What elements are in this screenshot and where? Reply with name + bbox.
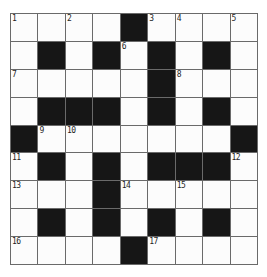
letter-cell-r5c3[interactable]: 10 [66, 126, 92, 153]
letter-cell-r3c8[interactable] [203, 70, 229, 97]
blocked-cell-r2c6 [148, 42, 174, 69]
letter-cell-r8c1[interactable] [11, 209, 37, 236]
letter-cell-r8c9[interactable] [231, 209, 257, 236]
blocked-cell-r6c6 [148, 153, 174, 180]
clue-number-5: 5 [232, 14, 236, 23]
blocked-cell-r2c4 [93, 42, 119, 69]
letter-cell-r3c2[interactable] [38, 70, 64, 97]
letter-cell-r8c3[interactable] [66, 209, 92, 236]
letter-cell-r1c4[interactable] [93, 14, 119, 41]
clue-number-8: 8 [177, 70, 181, 79]
clue-number-10: 10 [67, 126, 76, 135]
letter-cell-r9c4[interactable] [93, 237, 119, 264]
letter-cell-r2c3[interactable] [66, 42, 92, 69]
letter-cell-r7c8[interactable] [203, 181, 229, 208]
blocked-cell-r4c4 [93, 98, 119, 125]
letter-cell-r4c7[interactable] [176, 98, 202, 125]
letter-cell-r1c9[interactable]: 5 [231, 14, 257, 41]
letter-cell-r1c8[interactable] [203, 14, 229, 41]
clue-number-15: 15 [177, 181, 186, 190]
letter-cell-r2c1[interactable] [11, 42, 37, 69]
letter-cell-r7c7[interactable]: 15 [176, 181, 202, 208]
blocked-cell-r9c5 [121, 237, 147, 264]
letter-cell-r7c9[interactable] [231, 181, 257, 208]
blocked-cell-r1c5 [121, 14, 147, 41]
blocked-cell-r4c3 [66, 98, 92, 125]
crossword-page: 1234567891011121314151617 [0, 0, 267, 277]
letter-cell-r7c5[interactable]: 14 [121, 181, 147, 208]
letter-cell-r7c1[interactable]: 13 [11, 181, 37, 208]
clue-number-2: 2 [67, 14, 71, 23]
clue-number-9: 9 [39, 126, 43, 135]
blocked-cell-r7c4 [93, 181, 119, 208]
blocked-cell-r2c8 [203, 42, 229, 69]
letter-cell-r3c4[interactable] [93, 70, 119, 97]
crossword-grid: 1234567891011121314151617 [10, 13, 258, 265]
clue-number-13: 13 [12, 181, 21, 190]
letter-cell-r4c5[interactable] [121, 98, 147, 125]
letter-cell-r9c8[interactable] [203, 237, 229, 264]
letter-cell-r1c7[interactable]: 4 [176, 14, 202, 41]
blocked-cell-r3c6 [148, 70, 174, 97]
clue-number-12: 12 [232, 153, 241, 162]
letter-cell-r5c8[interactable] [203, 126, 229, 153]
letter-cell-r9c6[interactable]: 17 [148, 237, 174, 264]
letter-cell-r9c2[interactable] [38, 237, 64, 264]
letter-cell-r4c1[interactable] [11, 98, 37, 125]
clue-number-16: 16 [12, 237, 21, 246]
letter-cell-r3c1[interactable]: 7 [11, 70, 37, 97]
letter-cell-r3c3[interactable] [66, 70, 92, 97]
letter-cell-r1c3[interactable]: 2 [66, 14, 92, 41]
letter-cell-r5c7[interactable] [176, 126, 202, 153]
letter-cell-r6c3[interactable] [66, 153, 92, 180]
blocked-cell-r6c2 [38, 153, 64, 180]
letter-cell-r6c5[interactable] [121, 153, 147, 180]
blocked-cell-r4c2 [38, 98, 64, 125]
letter-cell-r9c1[interactable]: 16 [11, 237, 37, 264]
letter-cell-r8c5[interactable] [121, 209, 147, 236]
clue-number-6: 6 [122, 42, 126, 51]
letter-cell-r8c7[interactable] [176, 209, 202, 236]
letter-cell-r6c9[interactable]: 12 [231, 153, 257, 180]
blocked-cell-r8c6 [148, 209, 174, 236]
blocked-cell-r6c4 [93, 153, 119, 180]
letter-cell-r5c2[interactable]: 9 [38, 126, 64, 153]
blocked-cell-r4c8 [203, 98, 229, 125]
blocked-cell-r2c2 [38, 42, 64, 69]
blocked-cell-r4c6 [148, 98, 174, 125]
letter-cell-r9c9[interactable] [231, 237, 257, 264]
letter-cell-r1c1[interactable]: 1 [11, 14, 37, 41]
clue-number-11: 11 [12, 153, 21, 162]
letter-cell-r2c7[interactable] [176, 42, 202, 69]
letter-cell-r7c2[interactable] [38, 181, 64, 208]
letter-cell-r1c6[interactable]: 3 [148, 14, 174, 41]
clue-number-1: 1 [12, 14, 16, 23]
clue-number-14: 14 [122, 181, 131, 190]
letter-cell-r3c5[interactable] [121, 70, 147, 97]
blocked-cell-r6c8 [203, 153, 229, 180]
blocked-cell-r6c7 [176, 153, 202, 180]
clue-number-7: 7 [12, 70, 16, 79]
letter-cell-r9c3[interactable] [66, 237, 92, 264]
blocked-cell-r8c4 [93, 209, 119, 236]
letter-cell-r9c7[interactable] [176, 237, 202, 264]
letter-cell-r5c4[interactable] [93, 126, 119, 153]
letter-cell-r4c9[interactable] [231, 98, 257, 125]
clue-number-3: 3 [149, 14, 153, 23]
letter-cell-r1c2[interactable] [38, 14, 64, 41]
letter-cell-r7c3[interactable] [66, 181, 92, 208]
letter-cell-r6c1[interactable]: 11 [11, 153, 37, 180]
clue-number-17: 17 [149, 237, 158, 246]
letter-cell-r3c7[interactable]: 8 [176, 70, 202, 97]
letter-cell-r2c5[interactable]: 6 [121, 42, 147, 69]
letter-cell-r7c6[interactable] [148, 181, 174, 208]
letter-cell-r5c5[interactable] [121, 126, 147, 153]
blocked-cell-r8c8 [203, 209, 229, 236]
blocked-cell-r5c1 [11, 126, 37, 153]
clue-number-4: 4 [177, 14, 181, 23]
letter-cell-r2c9[interactable] [231, 42, 257, 69]
blocked-cell-r5c9 [231, 126, 257, 153]
blocked-cell-r8c2 [38, 209, 64, 236]
letter-cell-r3c9[interactable] [231, 70, 257, 97]
letter-cell-r5c6[interactable] [148, 126, 174, 153]
